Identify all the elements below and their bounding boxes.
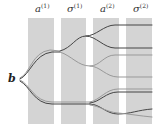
signal-paths xyxy=(0,0,162,131)
diagram: a(1) σ(1) a(2) σ(2) b xyxy=(0,0,162,131)
